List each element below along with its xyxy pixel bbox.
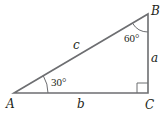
angle-label-b: 60° (124, 32, 139, 44)
angle-arc-a (43, 76, 48, 93)
side-label-a: a (151, 51, 158, 65)
angle-label-a: 30° (51, 76, 66, 88)
triangle (14, 14, 148, 93)
triangle-diagram: A B C a b c 30° 60° (0, 0, 168, 115)
side-label-b: b (77, 97, 85, 111)
right-angle-mark (137, 83, 148, 93)
vertex-label-b: B (150, 4, 160, 18)
side-label-c: c (73, 38, 80, 52)
angle-arc-b (133, 23, 149, 32)
vertex-label-c: C (145, 98, 154, 112)
vertex-label-a: A (5, 97, 15, 111)
